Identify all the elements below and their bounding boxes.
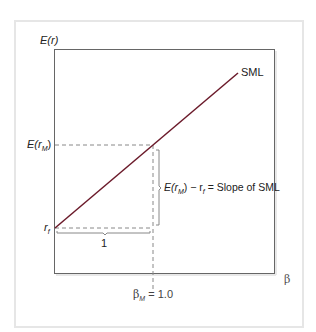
y-axis-label: E(r) (40, 35, 58, 46)
market-return-label: E(rM) (27, 139, 51, 152)
plot-area-border (55, 50, 275, 274)
x-axis-label: β (284, 274, 290, 285)
run-brace (57, 231, 150, 235)
beta-market-label: βM = 1.0 (133, 289, 173, 302)
risk-free-label: rf (44, 222, 50, 235)
sml-plot (0, 0, 316, 332)
rise-brace (156, 150, 161, 225)
slope-annotation: E(rM) − rf = Slope of SML (164, 182, 280, 195)
run-label: 1 (101, 238, 107, 249)
sml-label: SML (241, 67, 264, 78)
sml-line (55, 73, 238, 228)
